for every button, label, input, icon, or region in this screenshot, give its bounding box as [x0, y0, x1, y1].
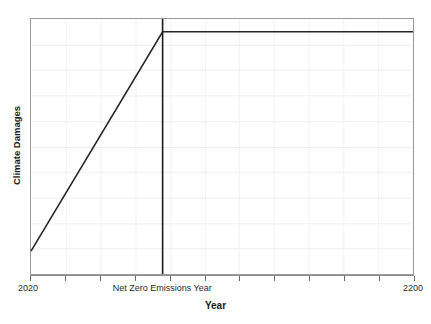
x-tick-label-net-zero: Net Zero Emissions Year [113, 283, 212, 294]
y-axis-title: Climate Damages [11, 86, 22, 206]
x-axis-tick [239, 276, 240, 281]
x-axis-tick [379, 276, 380, 281]
plot-area [30, 18, 414, 275]
x-axis-tick [170, 276, 171, 281]
x-axis-tick [309, 276, 310, 281]
x-axis-tick [65, 276, 66, 281]
x-axis-tick [30, 276, 31, 281]
x-axis-line [30, 275, 414, 276]
x-axis-tick [414, 276, 415, 281]
x-axis-tick [100, 276, 101, 281]
data-layer [31, 19, 413, 274]
x-axis-tick [135, 276, 136, 281]
x-axis-title: Year [0, 300, 431, 311]
x-axis-tick [344, 276, 345, 281]
x-tick-label-end: 2200 [403, 283, 423, 294]
x-tick-label-start: 2020 [18, 283, 38, 294]
chart-figure: 2020 Net Zero Emissions Year 2200 Year C… [0, 0, 431, 324]
climate-damages-line [31, 32, 413, 251]
x-axis-tick [274, 276, 275, 281]
x-axis-tick [205, 276, 206, 281]
